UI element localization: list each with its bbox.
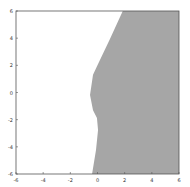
x-tick-label: 4	[150, 177, 153, 183]
y-tick-label: -4	[8, 144, 13, 150]
x-tick-label: -4	[41, 177, 46, 183]
y-tick-label: 4	[10, 35, 13, 41]
x-tick-label: 2	[123, 177, 126, 183]
x-tick-label: 0	[96, 177, 99, 183]
x-tick-label: -2	[68, 177, 73, 183]
y-tick-label: 6	[10, 8, 13, 14]
y-tick-label: 0	[10, 90, 13, 96]
x-tick-label: -6	[14, 177, 19, 183]
y-tick-label: -6	[8, 171, 13, 177]
y-tick-label: -2	[8, 117, 13, 123]
plot-area: -6-4-202466420-2-4-6	[8, 8, 181, 183]
y-tick-label: 2	[10, 62, 13, 68]
x-tick-label: 6	[177, 177, 180, 183]
shaded-region	[90, 11, 179, 174]
chart: -6-4-202466420-2-4-6	[0, 0, 190, 187]
